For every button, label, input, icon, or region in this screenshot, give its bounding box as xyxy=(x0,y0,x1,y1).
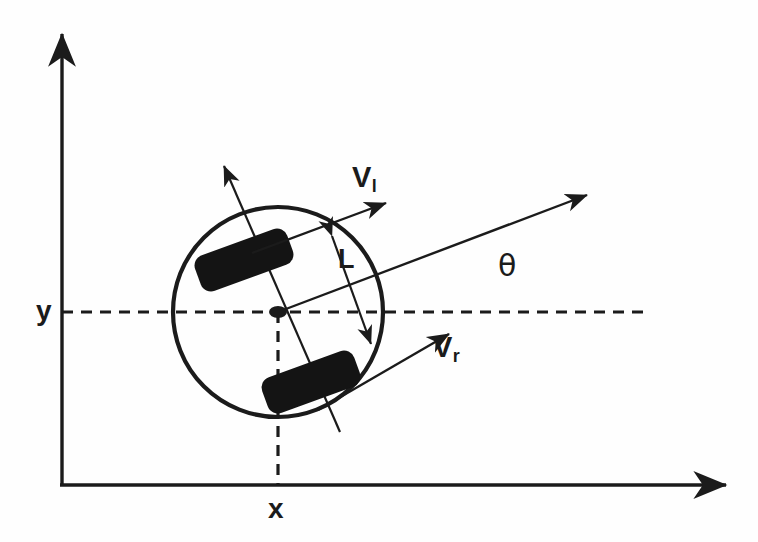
velocity-right-label: Vr xyxy=(433,333,459,362)
right-wheel xyxy=(258,347,363,416)
center-dot xyxy=(269,306,287,318)
heading-arrow xyxy=(278,195,587,312)
axis-label-x: x xyxy=(268,495,284,523)
velocity-right-base: V xyxy=(433,331,452,363)
velocity-right-subscript: r xyxy=(453,346,460,366)
heading-angle-label: θ xyxy=(498,251,516,281)
velocity-left-label: Vl xyxy=(352,163,376,192)
heading-vector xyxy=(278,195,587,312)
wheelbase-label: L xyxy=(338,246,355,273)
velocity-left-subscript: l xyxy=(372,176,377,196)
robot-kinematics-diagram: Vl Vr θ L y x xyxy=(0,0,758,542)
velocity-left-base: V xyxy=(352,161,371,193)
guide-lines xyxy=(62,312,650,485)
robot-center-point xyxy=(269,306,287,318)
diagram-canvas xyxy=(0,0,758,542)
v-left-arrow xyxy=(252,203,386,253)
coordinate-axes xyxy=(60,34,726,485)
axis-label-y: y xyxy=(36,297,52,325)
